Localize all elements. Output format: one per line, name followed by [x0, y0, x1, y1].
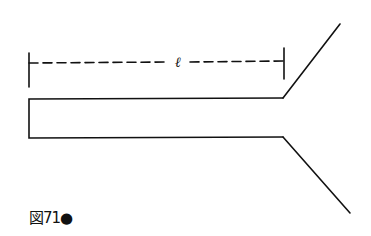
dimension-line-right	[190, 61, 284, 62]
dimension-line-left	[29, 62, 166, 63]
figure-caption: 図71●	[29, 209, 72, 227]
upper-flare-line	[283, 24, 340, 98]
dimension-label: ℓ	[175, 54, 181, 70]
channel-diagram: ℓ	[0, 0, 371, 236]
channel-outline	[29, 98, 283, 138]
lower-flare-line	[283, 137, 350, 213]
